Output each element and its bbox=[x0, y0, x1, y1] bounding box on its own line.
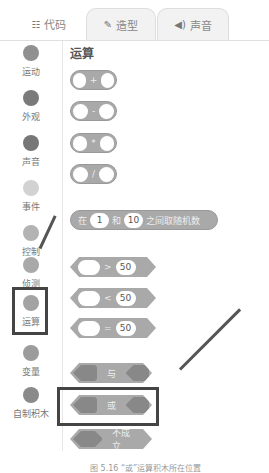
category-label: 变量 bbox=[22, 365, 40, 378]
subtract-block[interactable]: - bbox=[70, 101, 117, 121]
speaker-icon: ◀) bbox=[174, 19, 186, 30]
block-text: 和 bbox=[112, 214, 121, 227]
not-block[interactable]: 不成立 bbox=[70, 429, 152, 449]
brush-icon: ✎ bbox=[104, 19, 112, 30]
bool-slot[interactable] bbox=[73, 365, 97, 381]
block-text: 之间取随机数 bbox=[146, 214, 200, 227]
operator-label: = bbox=[104, 323, 112, 333]
category-label: 运动 bbox=[22, 65, 40, 78]
category-sound[interactable]: 声音 bbox=[0, 131, 62, 175]
category-motion[interactable]: 运动 bbox=[0, 41, 62, 85]
add-block[interactable]: + bbox=[70, 70, 117, 90]
input-slot[interactable] bbox=[73, 73, 86, 88]
category-variables[interactable]: 变量 bbox=[0, 341, 62, 385]
operator-label: 与 bbox=[107, 367, 116, 380]
arrow-icon bbox=[179, 308, 241, 370]
tab-label: 造型 bbox=[116, 17, 138, 33]
random-to-input[interactable]: 10 bbox=[124, 213, 143, 228]
input-slot[interactable] bbox=[78, 321, 100, 336]
category-label: 声音 bbox=[22, 155, 40, 168]
tab-bar: ☷代码 ✎造型 ◀)声音 bbox=[0, 0, 269, 41]
category-dot-icon bbox=[23, 45, 39, 61]
divide-block[interactable]: / bbox=[70, 164, 117, 184]
category-sidebar: 运动 外观 声音 事件 控制 侦测 运算 变量 自制积木 bbox=[0, 41, 63, 451]
random-from-input[interactable]: 1 bbox=[90, 213, 109, 228]
category-label: 自制积木 bbox=[13, 407, 49, 420]
category-dot-icon bbox=[23, 345, 39, 361]
input-slot[interactable] bbox=[99, 167, 114, 182]
and-block[interactable]: 与 bbox=[70, 363, 152, 383]
value-input[interactable]: 50 bbox=[116, 321, 136, 336]
category-my-blocks[interactable]: 自制积木 bbox=[0, 383, 62, 427]
figure-caption: 图 5.16 “或”运算积木所在位置 bbox=[90, 462, 201, 473]
input-slot[interactable] bbox=[100, 136, 114, 151]
input-slot[interactable] bbox=[78, 291, 100, 306]
category-dot-icon bbox=[23, 135, 39, 151]
block-text: 在 bbox=[78, 214, 87, 227]
palette-title: 运算 bbox=[70, 44, 94, 61]
category-label: 事件 bbox=[22, 200, 40, 213]
category-label: 外观 bbox=[22, 110, 40, 123]
operator-label: < bbox=[104, 293, 112, 303]
category-looks[interactable]: 外观 bbox=[0, 86, 62, 130]
input-slot[interactable] bbox=[78, 260, 100, 275]
category-events[interactable]: 事件 bbox=[0, 176, 62, 220]
code-icon: ☷ bbox=[32, 19, 41, 30]
equals-block[interactable]: =50 bbox=[70, 318, 156, 338]
bool-slot[interactable] bbox=[73, 431, 102, 447]
operator-label: / bbox=[92, 169, 95, 179]
greater-than-block[interactable]: >50 bbox=[70, 257, 156, 277]
input-slot[interactable] bbox=[99, 104, 114, 119]
value-input[interactable]: 50 bbox=[116, 291, 136, 306]
input-slot[interactable] bbox=[73, 104, 88, 119]
category-dot-icon bbox=[23, 387, 39, 403]
tab-sounds[interactable]: ◀)声音 bbox=[157, 8, 229, 40]
tab-costumes[interactable]: ✎造型 bbox=[86, 8, 156, 40]
category-dot-icon bbox=[23, 180, 39, 196]
highlight-box-or-block bbox=[57, 387, 159, 426]
input-slot[interactable] bbox=[101, 73, 114, 88]
category-dot-icon bbox=[23, 257, 39, 273]
category-dot-icon bbox=[23, 225, 39, 241]
value-input[interactable]: 50 bbox=[116, 260, 136, 275]
less-than-block[interactable]: <50 bbox=[70, 288, 156, 308]
tab-label: 声音 bbox=[190, 17, 212, 33]
operator-label: * bbox=[91, 138, 96, 148]
multiply-block[interactable]: * bbox=[70, 133, 117, 153]
input-slot[interactable] bbox=[73, 136, 87, 151]
tab-label: 代码 bbox=[44, 16, 66, 32]
category-dot-icon bbox=[23, 90, 39, 106]
operator-label: + bbox=[90, 75, 98, 85]
highlight-box-operators bbox=[12, 287, 48, 335]
random-block[interactable]: 在 1 和 10 之间取随机数 bbox=[70, 210, 218, 230]
input-slot[interactable] bbox=[73, 167, 88, 182]
tab-code[interactable]: ☷代码 bbox=[14, 8, 84, 40]
operator-label: > bbox=[104, 262, 112, 272]
operator-label: 不成立 bbox=[112, 426, 139, 452]
operator-label: - bbox=[92, 106, 95, 116]
bool-slot[interactable] bbox=[126, 365, 150, 381]
